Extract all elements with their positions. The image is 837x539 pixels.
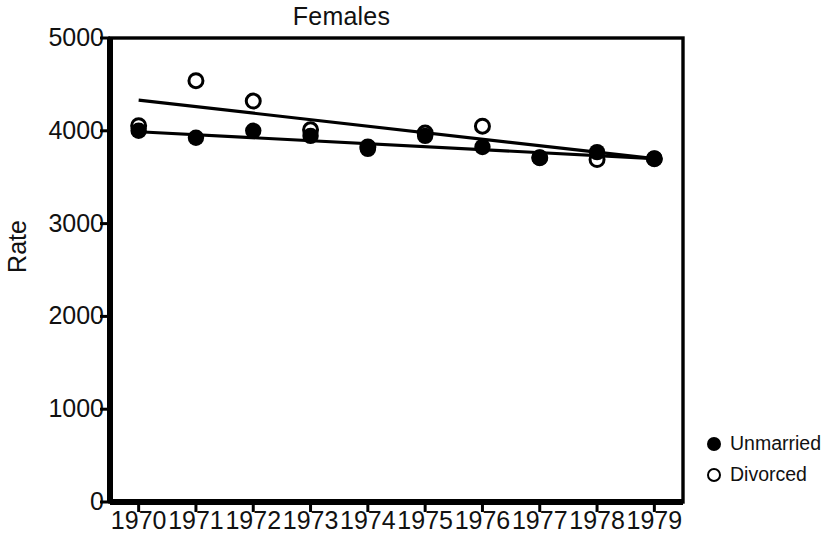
chart-figure: Females Rate 010002000300040005000 19701… — [0, 0, 837, 539]
data-point-unmarried — [532, 150, 548, 166]
data-point-unmarried — [360, 141, 376, 157]
data-point-unmarried — [188, 130, 204, 146]
data-point-unmarried — [417, 128, 433, 144]
legend-label: Divorced — [730, 463, 807, 486]
legend-label: Unmarried — [730, 432, 821, 455]
legend-item-divorced[interactable]: Divorced — [707, 459, 837, 490]
chart-legend: Unmarried Divorced — [707, 428, 837, 490]
data-point-divorced — [475, 119, 489, 133]
legend-item-unmarried[interactable]: Unmarried — [707, 428, 837, 459]
trendline-divorced — [139, 100, 655, 158]
data-point-unmarried — [302, 128, 318, 144]
data-point-unmarried — [245, 123, 261, 139]
open-circle-icon — [707, 468, 721, 482]
data-point-unmarried — [589, 144, 605, 160]
data-point-divorced — [246, 94, 260, 108]
data-point-unmarried — [646, 150, 662, 166]
filled-circle-icon — [707, 437, 721, 451]
data-point-divorced — [189, 74, 203, 88]
data-point-unmarried — [130, 123, 146, 139]
trendline-unmarried — [139, 132, 655, 159]
x-tick-label: 1979 — [611, 508, 697, 533]
data-point-unmarried — [474, 139, 490, 155]
